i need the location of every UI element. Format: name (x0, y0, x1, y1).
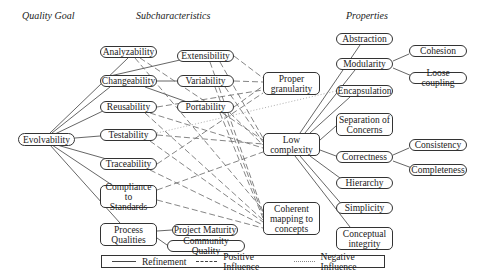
node-variability: Variability (177, 75, 234, 87)
node-correctness: Correctness (336, 151, 393, 163)
node-project-maturity: Project Maturity (172, 224, 238, 236)
node-modularity: Modularity (336, 58, 393, 70)
legend-refinement-label: Refinement (142, 257, 186, 267)
node-evolvability: Evolvability (18, 133, 75, 146)
solid-line-icon (112, 261, 136, 262)
node-simplicity: Simplicity (336, 202, 393, 214)
header-properties: Properties (346, 10, 388, 21)
node-extensibility: Extensibility (177, 50, 234, 62)
node-changeability: Changeability (100, 75, 157, 87)
node-abstraction: Abstraction (336, 33, 393, 45)
node-cohesion: Cohesion (409, 45, 467, 57)
dashed-line-icon (196, 261, 217, 262)
node-consistency: Consistency (409, 139, 467, 151)
legend-refinement: Refinement (112, 257, 186, 267)
node-analyzability: Analyzability (100, 46, 157, 58)
node-proper-granularity: Proper granularity (263, 72, 320, 95)
node-community-quality: Community Quality (167, 240, 245, 252)
node-testability: Testability (100, 129, 157, 141)
node-coherent-mapping: Coherent mapping to concepts (263, 202, 320, 235)
header-subcharacteristics: Subcharacteristics (136, 10, 210, 21)
node-separation-of-concerns: Separation of Concerns (336, 113, 393, 136)
dotted-line-icon (294, 261, 315, 262)
node-completeness: Completeness (409, 164, 467, 176)
node-hierarchy: Hierarchy (336, 177, 393, 189)
node-low-complexity: Low complexity (263, 133, 320, 156)
legend: Refinement Positive Influence Negative I… (101, 255, 385, 268)
node-reusability: Reusability (100, 101, 157, 113)
node-encapsulation: Encapsulation (336, 85, 393, 97)
node-loose-coupling: Loose coupling (409, 72, 467, 84)
legend-positive-label: Positive Influence (223, 252, 283, 272)
node-portability: Portability (177, 101, 234, 113)
legend-negative-influence: Negative Influence (294, 252, 384, 272)
node-process-qualities: Process Qualities (100, 223, 157, 246)
node-traceability: Traceability (100, 158, 157, 170)
node-compliance-to-standards: Compliance to Standards (100, 185, 157, 208)
header-quality-goal: Quality Goal (22, 10, 75, 21)
node-conceptual-integrity: Conceptual integrity (336, 227, 393, 250)
legend-negative-label: Negative Influence (321, 252, 384, 272)
legend-positive-influence: Positive Influence (196, 252, 283, 272)
